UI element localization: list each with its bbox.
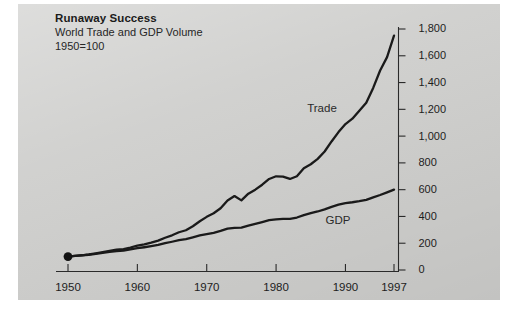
y-tick-label: 600 — [419, 183, 437, 195]
y-axis-labels: 02004006008001,0001,2001,4001,6001,800 — [419, 22, 447, 275]
gdp-series-label: GDP — [326, 214, 351, 226]
x-axis-ticks — [68, 264, 394, 271]
y-tick-label: 800 — [419, 156, 437, 168]
x-axis-labels: 195019601970198019901997 — [55, 281, 407, 293]
y-tick-label: 1,200 — [419, 103, 447, 115]
x-tick-label: 1990 — [333, 281, 359, 293]
x-tick-label: 1997 — [381, 281, 407, 293]
y-tick-label: 1,400 — [419, 76, 447, 88]
x-tick-label: 1960 — [125, 281, 151, 293]
y-tick-label: 1,000 — [419, 130, 447, 142]
y-tick-label: 400 — [419, 210, 437, 222]
x-tick-label: 1970 — [194, 281, 220, 293]
y-tick-label: 1,600 — [419, 49, 447, 61]
x-tick-label: 1950 — [55, 281, 81, 293]
y-tick-label: 0 — [419, 263, 425, 275]
trade-series-label: Trade — [307, 102, 337, 114]
y-tick-label: 200 — [419, 237, 437, 249]
y-axis-ticks — [399, 29, 406, 270]
chart-plot: 02004006008001,0001,2001,4001,6001,800 1… — [0, 0, 513, 317]
chart-figure: Runaway Success World Trade and GDP Volu… — [0, 0, 513, 317]
series-start-marker — [64, 252, 73, 261]
y-tick-label: 1,800 — [419, 22, 447, 34]
x-tick-label: 1980 — [263, 281, 289, 293]
